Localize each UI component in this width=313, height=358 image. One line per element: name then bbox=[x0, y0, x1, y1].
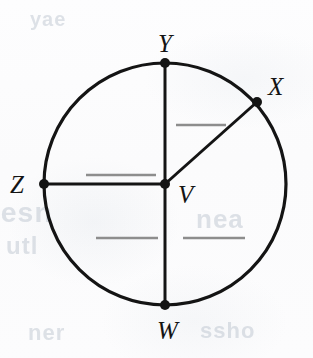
point-label-Z: Z bbox=[10, 172, 24, 197]
point-label-X: X bbox=[268, 74, 283, 99]
point-label-Y: Y bbox=[158, 31, 172, 56]
point-dot-V bbox=[160, 179, 170, 189]
point-dot-Z bbox=[39, 179, 49, 189]
point-dot-W bbox=[160, 300, 170, 310]
segment-VX bbox=[165, 102, 257, 184]
point-label-W: W bbox=[157, 318, 178, 343]
point-dot-Y bbox=[160, 58, 170, 68]
point-dot-X bbox=[252, 97, 262, 107]
figure-root: esn utl nea ner ssho yae Y X Z V W bbox=[0, 0, 313, 358]
point-label-V: V bbox=[178, 182, 193, 207]
circle-diagram bbox=[0, 0, 313, 358]
